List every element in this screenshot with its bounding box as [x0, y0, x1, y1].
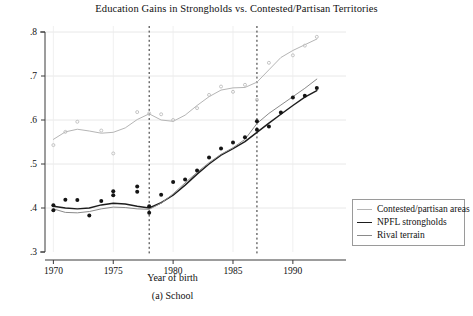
data-point [75, 198, 79, 202]
data-point [183, 177, 187, 181]
data-point [255, 119, 259, 123]
data-point [160, 113, 163, 116]
data-point [51, 203, 55, 207]
data-point [147, 211, 151, 215]
legend-label-npfl: NPFL strongholds [377, 216, 447, 229]
svg-text:.8: .8 [30, 27, 37, 37]
data-point [195, 169, 199, 173]
data-point [303, 94, 307, 98]
data-point [87, 213, 91, 217]
legend-item-npfl[interactable]: NPFL strongholds [355, 216, 462, 229]
data-point [267, 61, 270, 64]
data-point [111, 189, 115, 193]
data-point [315, 86, 319, 90]
data-point [315, 35, 318, 38]
data-point [147, 204, 151, 208]
x-axis-label: Year of birth [0, 272, 345, 283]
data-point [243, 135, 247, 139]
data-point [207, 155, 211, 159]
data-point [111, 193, 115, 197]
data-point [135, 184, 139, 188]
data-point [76, 120, 79, 123]
data-point [135, 190, 139, 194]
svg-text:.5: .5 [30, 159, 37, 169]
data-point [208, 93, 211, 96]
data-point [267, 125, 271, 129]
data-point [51, 208, 55, 212]
data-point [100, 129, 103, 132]
chart-plot-area: .3.4.5.6.7.819701975198019851990 [0, 0, 473, 316]
data-point [279, 111, 283, 115]
legend-swatch-rival [357, 235, 372, 236]
legend-label-rival: Rival terrain [377, 229, 425, 242]
svg-text:.6: .6 [30, 115, 37, 125]
data-point [255, 128, 259, 132]
chart-legend: Contested/partisan areas NPFL stronghold… [352, 199, 465, 246]
series-line-contested-partisan-areas [53, 39, 316, 139]
svg-text:.7: .7 [30, 71, 37, 81]
series-line-npfl-strongholds [53, 91, 316, 209]
legend-swatch-contested [357, 209, 372, 210]
figure-caption: (a) School [0, 290, 345, 301]
data-point [63, 198, 67, 202]
data-point [231, 140, 235, 144]
legend-swatch-npfl [357, 222, 372, 223]
data-point [159, 193, 163, 197]
figure-container: Education Gains in Strongholds vs. Conte… [0, 0, 473, 316]
legend-item-rival[interactable]: Rival terrain [355, 229, 462, 242]
data-point [171, 180, 175, 184]
svg-text:.3: .3 [30, 247, 37, 257]
svg-text:.4: .4 [30, 203, 37, 213]
data-point [99, 199, 103, 203]
data-point [243, 83, 246, 86]
data-point [196, 107, 199, 110]
data-point [136, 111, 139, 114]
data-point [219, 147, 223, 151]
data-point [220, 85, 223, 88]
legend-label-contested: Contested/partisan areas [377, 203, 470, 216]
data-point [291, 96, 295, 100]
legend-item-contested[interactable]: Contested/partisan areas [355, 203, 462, 216]
series-line-rival-terrain [53, 79, 316, 213]
